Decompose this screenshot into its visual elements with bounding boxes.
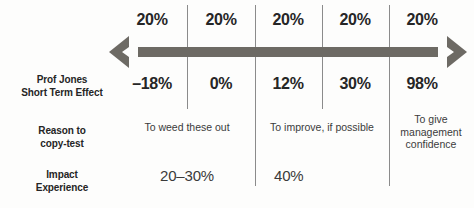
row-label-reason: Reason to copy-test: [0, 125, 124, 150]
effect-cell-4: 30%: [324, 74, 386, 93]
quintile-cell-5: 20%: [391, 10, 453, 29]
reason-cell-management-confidence-line2: management: [392, 126, 470, 139]
reason-cell-improve: To improve, if possible: [258, 121, 386, 134]
arrow-bar: [138, 47, 438, 57]
row-label-reason-line2: copy-test: [0, 138, 124, 151]
row-label-prof-jones-line2: Short Term Effect: [0, 87, 124, 100]
effect-cell-1: –18%: [121, 74, 183, 93]
quintile-cell-3: 20%: [257, 10, 319, 29]
reason-cell-management-confidence-line3: confidence: [392, 138, 470, 151]
reason-cell-weed-out: To weed these out: [122, 121, 252, 134]
row-label-impact-line1: Impact: [0, 169, 124, 182]
quintile-cell-1: 20%: [121, 10, 183, 29]
row-label-reason-line1: Reason to: [0, 125, 124, 138]
quintile-impact-chart: 20% 20% 20% 20% 20% Prof Jones Short Ter…: [0, 0, 474, 208]
row-label-impact: Impact Experience: [0, 169, 124, 194]
impact-cell-1: 20–30%: [122, 167, 252, 185]
row-label-impact-line2: Experience: [0, 182, 124, 195]
reason-cell-management-confidence-line1: To give: [392, 113, 470, 126]
effect-cell-5: 98%: [391, 74, 453, 93]
impact-cell-2: 40%: [258, 167, 386, 185]
reason-cell-management-confidence: To give management confidence: [392, 113, 470, 151]
row-label-prof-jones: Prof Jones Short Term Effect: [0, 74, 124, 99]
quintile-cell-4: 20%: [324, 10, 386, 29]
quintile-cell-2: 20%: [190, 10, 252, 29]
arrow-right-head: [430, 33, 468, 71]
arrow-left-head: [108, 33, 146, 71]
effect-cell-3: 12%: [257, 74, 319, 93]
effect-cell-2: 0%: [190, 74, 252, 93]
row-label-prof-jones-line1: Prof Jones: [0, 74, 124, 87]
double-headed-arrow: [108, 33, 468, 71]
